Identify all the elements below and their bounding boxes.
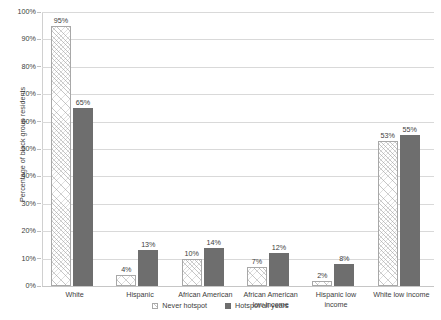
bar-never-hotspot[interactable] xyxy=(182,259,202,286)
bar-hotspot-all-years[interactable] xyxy=(269,253,289,286)
plot-area: 95%65%4%13%10%14%7%12%2%8%53%55% xyxy=(42,12,434,286)
bar-hotspot-all-years[interactable] xyxy=(204,248,224,286)
y-axis-tick-label: 0% xyxy=(2,282,36,290)
chart-title-remnant xyxy=(120,0,340,1)
y-axis-tick-mark xyxy=(37,286,41,287)
x-axis-category-label: White low income xyxy=(360,290,441,300)
bar-group: 2%8% xyxy=(303,12,368,286)
bar-group: 10%14% xyxy=(173,12,238,286)
bar-hotspot-all-years[interactable] xyxy=(73,108,93,286)
y-axis-tick-label: 50% xyxy=(2,145,36,153)
legend-label-hotspot-all-years: Hotspot all years xyxy=(235,301,289,310)
y-axis-tick-mark xyxy=(37,66,41,67)
y-axis-tick-mark xyxy=(37,231,41,232)
y-axis-tick-mark xyxy=(37,121,41,122)
y-axis-tick-mark xyxy=(37,12,41,13)
y-axis-tick-mark xyxy=(37,258,41,259)
bar-value-label: 12% xyxy=(264,244,294,252)
y-axis-tick-label: 80% xyxy=(2,63,36,71)
never-hotspot-swatch-icon xyxy=(152,303,158,309)
bar-group: 7%12% xyxy=(238,12,303,286)
bar-group: 95%65% xyxy=(42,12,107,286)
y-axis-tick-label: 20% xyxy=(2,227,36,235)
y-axis-tick-label: 10% xyxy=(2,255,36,263)
y-axis-tick-label: 100% xyxy=(2,8,36,16)
bar-value-label: 8% xyxy=(329,255,359,263)
bar-hotspot-all-years[interactable] xyxy=(400,135,420,286)
bar-value-label: 55% xyxy=(395,126,425,134)
bar-hotspot-all-years[interactable] xyxy=(138,250,158,286)
y-axis-tick-label: 40% xyxy=(2,172,36,180)
y-axis-tick-label: 90% xyxy=(2,35,36,43)
bar-value-label: 13% xyxy=(133,241,163,249)
y-axis-tick-mark xyxy=(37,203,41,204)
y-axis-tick-mark xyxy=(37,149,41,150)
y-axis-tick-label: 70% xyxy=(2,90,36,98)
bar-value-label: 7% xyxy=(242,258,272,266)
bar-hotspot-all-years[interactable] xyxy=(334,264,354,286)
bar-value-label: 2% xyxy=(307,272,337,280)
gridline xyxy=(42,286,434,287)
legend-item-never-hotspot: Never hotspot xyxy=(152,301,207,310)
bar-chart: Percentage of block group residents 95%6… xyxy=(0,0,441,320)
bar-never-hotspot[interactable] xyxy=(247,267,267,286)
x-axis-category-label-line: White low income xyxy=(360,290,441,300)
y-axis-tick-mark xyxy=(37,176,41,177)
bar-never-hotspot[interactable] xyxy=(378,141,398,286)
bar-never-hotspot[interactable] xyxy=(312,281,332,286)
chart-legend: Never hotspot Hotspot all years xyxy=(0,301,441,310)
y-axis-tick-mark xyxy=(37,94,41,95)
bar-never-hotspot[interactable] xyxy=(51,26,71,286)
bar-value-label: 10% xyxy=(177,250,207,258)
hotspot-all-years-swatch-icon xyxy=(225,303,231,309)
bar-value-label: 4% xyxy=(111,266,141,274)
y-axis-tick-label: 60% xyxy=(2,118,36,126)
y-axis-tick-label: 30% xyxy=(2,200,36,208)
bar-value-label: 14% xyxy=(199,239,229,247)
bar-value-label: 95% xyxy=(46,17,76,25)
bar-never-hotspot[interactable] xyxy=(116,275,136,286)
bar-value-label: 65% xyxy=(68,99,98,107)
legend-label-never-hotspot: Never hotspot xyxy=(162,301,207,310)
bar-group: 4%13% xyxy=(107,12,172,286)
y-axis-tick-mark xyxy=(37,39,41,40)
bar-group: 53%55% xyxy=(369,12,434,286)
legend-item-hotspot-all-years: Hotspot all years xyxy=(225,301,289,310)
